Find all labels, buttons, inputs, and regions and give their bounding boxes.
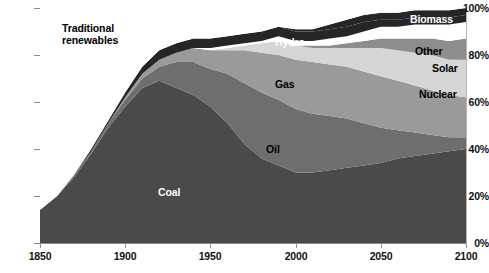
x-tick-2000 [296, 243, 297, 248]
x-axis-line [40, 243, 466, 244]
series-label-hydro: Hydro [275, 36, 305, 48]
series-label-coal: Coal [158, 186, 180, 198]
series-label-nuclear: Nuclear [419, 88, 457, 100]
x-label-1850: 1850 [17, 250, 63, 262]
x-label-2050: 2050 [358, 250, 404, 262]
series-label-other: Other [415, 45, 443, 57]
x-label-2000: 2000 [273, 250, 319, 262]
x-tick-2100 [466, 243, 467, 248]
chart-root: 100% 80% 60% 40% 20% 0% 1850 1900 1950 2… [0, 0, 489, 273]
series-label-traditional-renewables: Traditional renewables [62, 22, 118, 46]
series-label-biomass: Biomass [410, 13, 453, 25]
x-label-1900: 1900 [102, 250, 148, 262]
series-label-oil: Oil [266, 143, 280, 155]
x-label-1950: 1950 [187, 250, 233, 262]
plot-right-border [466, 8, 467, 244]
x-tick-1900 [125, 243, 126, 248]
x-tick-1950 [210, 243, 211, 248]
x-label-2100: 2100 [443, 250, 489, 262]
traditional-renewables-line1: Traditional [62, 22, 114, 34]
x-tick-2050 [381, 243, 382, 248]
x-tick-1850 [40, 243, 41, 248]
series-label-solar: Solar [432, 62, 458, 74]
traditional-renewables-line2: renewables [62, 34, 118, 46]
series-label-gas: Gas [275, 78, 295, 90]
